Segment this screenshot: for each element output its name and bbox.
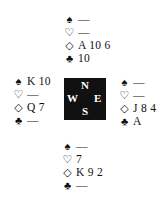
north-spades-row: ♠ — [64, 13, 110, 26]
south-spades-cards: — [76, 140, 88, 153]
south-diamonds-row: ◇ K 9 2 [62, 166, 103, 179]
compass-east-label: E [94, 93, 101, 104]
heart-icon: ♡ [119, 89, 130, 102]
west-spades-cards: K 10 [27, 75, 51, 88]
west-clubs-cards: — [27, 114, 39, 127]
north-clubs-cards: 10 [78, 52, 90, 65]
east-hand: ♠ — ♡ — ◇ J 8 4 ♣ A [119, 76, 156, 128]
west-clubs-row: ♣ — [13, 114, 51, 127]
west-diamonds-row: ◇ Q 7 [13, 101, 51, 114]
diamond-icon: ◇ [62, 166, 73, 179]
north-hearts-cards: — [78, 26, 90, 39]
spade-icon: ♠ [13, 75, 24, 88]
south-clubs-row: ♣ — [62, 179, 103, 192]
west-hand: ♠ K 10 ♡ — ◇ Q 7 ♣ — [13, 75, 51, 127]
compass-west-label: W [67, 93, 78, 104]
heart-icon: ♡ [64, 26, 75, 39]
club-icon: ♣ [64, 52, 75, 65]
west-spades-row: ♠ K 10 [13, 75, 51, 88]
club-icon: ♣ [13, 114, 24, 127]
club-icon: ♣ [62, 179, 73, 192]
east-clubs-cards: A [133, 115, 142, 128]
club-icon: ♣ [119, 115, 130, 128]
south-diamonds-cards: K 9 2 [76, 166, 103, 179]
east-diamonds-row: ◇ J 8 4 [119, 102, 156, 115]
east-clubs-row: ♣ A [119, 115, 156, 128]
west-diamonds-cards: Q 7 [27, 101, 45, 114]
south-hearts-row: ♡ 7 [62, 153, 103, 166]
diamond-icon: ◇ [64, 39, 75, 52]
diamond-icon: ◇ [13, 101, 24, 114]
south-spades-row: ♠ — [62, 140, 103, 153]
north-diamonds-cards: A 10 6 [78, 39, 110, 52]
compass-box: N W E S [64, 78, 106, 120]
east-spades-cards: — [133, 76, 145, 89]
north-hand: ♠ — ♡ — ◇ A 10 6 ♣ 10 [64, 13, 110, 65]
east-hearts-row: ♡ — [119, 89, 156, 102]
west-hearts-row: ♡ — [13, 88, 51, 101]
east-diamonds-cards: J 8 4 [133, 102, 156, 115]
heart-icon: ♡ [13, 88, 24, 101]
north-spades-cards: — [78, 13, 90, 26]
east-spades-row: ♠ — [119, 76, 156, 89]
north-diamonds-row: ◇ A 10 6 [64, 39, 110, 52]
south-hand: ♠ — ♡ 7 ◇ K 9 2 ♣ — [62, 140, 103, 192]
north-clubs-row: ♣ 10 [64, 52, 110, 65]
diamond-icon: ◇ [119, 102, 130, 115]
compass-south-label: S [82, 106, 88, 117]
south-clubs-cards: — [76, 179, 88, 192]
east-hearts-cards: — [133, 89, 145, 102]
spade-icon: ♠ [119, 76, 130, 89]
spade-icon: ♠ [62, 140, 73, 153]
spade-icon: ♠ [64, 13, 75, 26]
heart-icon: ♡ [62, 153, 73, 166]
north-hearts-row: ♡ — [64, 26, 110, 39]
south-hearts-cards: 7 [76, 153, 82, 166]
west-hearts-cards: — [27, 88, 39, 101]
compass-north-label: N [81, 80, 89, 91]
